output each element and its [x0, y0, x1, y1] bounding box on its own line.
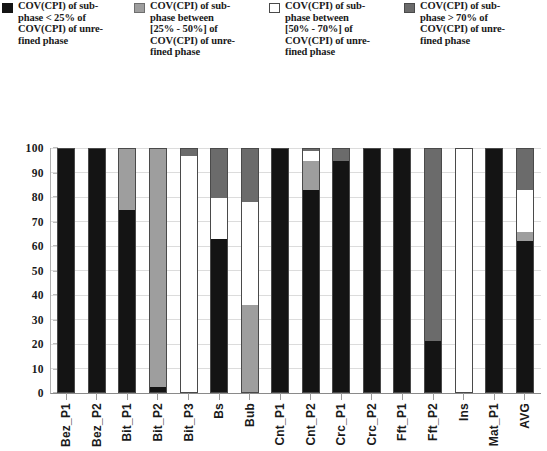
bar-segment-gt70	[181, 149, 197, 156]
bar-group[interactable]	[357, 148, 388, 393]
y-axis: 0102030405060708090100	[8, 148, 44, 393]
stacked-bar[interactable]	[393, 148, 411, 393]
stacked-bar[interactable]	[455, 148, 473, 393]
bar-segment-b5070	[211, 198, 227, 239]
x-axis-label-slot: Bit_P1	[112, 403, 143, 451]
legend-item-lt25: COV(CPI) of sub- phase < 25% of COV(CPI)…	[0, 0, 134, 46]
bar-series-container	[51, 148, 540, 393]
x-axis-tick	[143, 393, 174, 400]
stacked-bar[interactable]	[516, 148, 534, 393]
chart-plot-area: 0102030405060708090100 Bez_P1Bez_P2Bit_P…	[0, 70, 547, 405]
x-axis-label-slot: Bs	[204, 403, 235, 451]
x-axis-tick	[509, 393, 540, 400]
x-axis-label-slot: Bez_P1	[51, 403, 82, 451]
x-axis-tick-mark	[188, 393, 189, 400]
x-axis-label-slot: Cnt_P1	[265, 403, 296, 451]
bar-group[interactable]	[448, 148, 479, 393]
bar-group[interactable]	[296, 148, 327, 393]
bar-segment-lt25	[425, 341, 441, 392]
x-axis-tick-mark	[494, 393, 495, 400]
x-axis-tick-label: Bit_P3	[182, 403, 196, 442]
x-axis-tick-mark	[463, 393, 464, 400]
bar-group[interactable]	[112, 148, 143, 393]
bar-group[interactable]	[326, 148, 357, 393]
x-axis-tick-mark	[66, 393, 67, 400]
bar-group[interactable]	[479, 148, 510, 393]
legend-label-between-25-50: COV(CPI) of sub- phase between [25% - 50…	[150, 0, 235, 58]
x-axis-label-slot: Bit_P2	[143, 403, 174, 451]
stacked-bar[interactable]	[57, 148, 75, 393]
chart-legend: COV(CPI) of sub- phase < 25% of COV(CPI)…	[0, 0, 547, 70]
x-axis-label-slot: Mat_P1	[479, 403, 510, 451]
x-axis-tick-label: Cnt_P1	[273, 403, 287, 446]
y-axis-tick-label: 50	[32, 265, 44, 277]
x-axis-tick-mark	[402, 393, 403, 400]
x-axis-tick	[326, 393, 357, 400]
bar-group[interactable]	[509, 148, 540, 393]
bar-segment-lt25	[333, 161, 349, 392]
x-axis-label-slot: Crc_P2	[357, 403, 388, 451]
x-axis-label-slot: Fft_P2	[418, 403, 449, 451]
bar-segment-lt25	[272, 149, 288, 392]
stacked-bar[interactable]	[149, 148, 167, 393]
x-axis-label-slot: Bez_P2	[82, 403, 113, 451]
y-axis-tick-label: 20	[32, 338, 44, 350]
x-axis-label-slot: AVG	[509, 403, 540, 451]
x-axis-label-slot: Crc_P1	[326, 403, 357, 451]
x-axis-tick-mark	[96, 393, 97, 400]
bar-segment-lt25	[517, 241, 533, 392]
x-axis-tick-mark	[157, 393, 158, 400]
x-axis-label-slot: Bub	[234, 403, 265, 451]
x-axis-tick	[479, 393, 510, 400]
stacked-bar[interactable]	[424, 148, 442, 393]
bar-group[interactable]	[82, 148, 113, 393]
bar-group[interactable]	[234, 148, 265, 393]
stacked-bar[interactable]	[210, 148, 228, 393]
stacked-bar[interactable]	[241, 148, 259, 393]
x-axis-tick	[112, 393, 143, 400]
stacked-bar[interactable]	[332, 148, 350, 393]
x-axis-tick-label: Crc_P1	[334, 403, 348, 446]
bar-segment-lt25	[119, 210, 135, 392]
bar-segment-lt25	[58, 149, 74, 392]
bar-segment-b5070	[456, 149, 472, 392]
bar-group[interactable]	[418, 148, 449, 393]
bar-segment-gt70	[517, 149, 533, 190]
bar-group[interactable]	[143, 148, 174, 393]
x-axis-tick	[204, 393, 235, 400]
bar-group[interactable]	[265, 148, 296, 393]
x-axis-tick-label: Fft_P2	[426, 403, 440, 441]
x-axis-tick	[265, 393, 296, 400]
x-axis-tick-mark	[127, 393, 128, 400]
x-axis-tick-label: Bit_P2	[151, 403, 165, 442]
stacked-bar[interactable]	[88, 148, 106, 393]
stacked-bar[interactable]	[180, 148, 198, 393]
bar-group[interactable]	[51, 148, 82, 393]
stacked-bar[interactable]	[363, 148, 381, 393]
bar-segment-b5070	[517, 190, 533, 231]
bar-segment-b2550	[517, 232, 533, 242]
y-axis-tick-label: 90	[32, 167, 44, 179]
bar-group[interactable]	[173, 148, 204, 393]
bar-segment-b5070	[242, 202, 258, 304]
legend-swatch-between-25-50	[134, 3, 145, 13]
bar-segment-b2550	[303, 161, 319, 190]
bar-group[interactable]	[387, 148, 418, 393]
stacked-bar[interactable]	[118, 148, 136, 393]
bar-segment-b5070	[303, 151, 319, 161]
bar-segment-b2550	[242, 305, 258, 392]
x-axis-tick	[448, 393, 479, 400]
x-axis-tick	[418, 393, 449, 400]
stacked-bar[interactable]	[302, 148, 320, 393]
legend-item-gt70: COV(CPI) of sub- phase > 70% of COV(CPI)…	[404, 0, 547, 46]
x-axis-label-slot: Ins	[448, 403, 479, 451]
bar-group[interactable]	[204, 148, 235, 393]
stacked-bar[interactable]	[485, 148, 503, 393]
y-axis-tick-label: 80	[32, 191, 44, 203]
stacked-bar[interactable]	[271, 148, 289, 393]
bar-segment-gt70	[425, 149, 441, 341]
x-axis-ticks	[51, 393, 540, 400]
legend-swatch-gt70	[404, 3, 415, 13]
legend-swatch-between-50-70	[269, 3, 280, 13]
x-axis-tick-mark	[280, 393, 281, 400]
